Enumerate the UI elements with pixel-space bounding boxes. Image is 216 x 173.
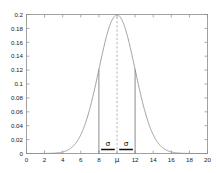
x-tick-label: 8 — [97, 156, 101, 163]
sigma-label-left: σ — [106, 139, 111, 148]
y-tick-label: 0.14 — [11, 52, 24, 59]
y-tick-label: 0.02 — [11, 136, 24, 143]
sigma-label-right: σ — [124, 139, 129, 148]
y-tick-label: 0.1 — [14, 80, 23, 87]
y-tick-label: 0.18 — [11, 25, 24, 32]
normal-distribution-figure: 00.020.040.060.080.10.120.140.160.180.2 … — [0, 0, 216, 173]
x-tick-label: 20 — [204, 156, 211, 163]
y-tick-label: 0.04 — [11, 122, 24, 129]
y-tick-label: 0 — [20, 150, 24, 157]
x-tick-label: 12 — [132, 156, 139, 163]
y-tick-label: 0.08 — [11, 94, 24, 101]
plot-canvas: 00.020.040.060.080.10.120.140.160.180.2 … — [0, 0, 216, 173]
y-tick-label: 0.06 — [11, 108, 24, 115]
x-tick-label: 6 — [79, 156, 83, 163]
x-tick-label-mu: μ — [115, 155, 120, 164]
x-tick-label: 18 — [186, 156, 193, 163]
x-tick-label: 14 — [150, 156, 157, 163]
y-tick-label: 0.16 — [11, 39, 24, 46]
y-tick-label: 0.2 — [14, 11, 23, 18]
x-tick-label: 2 — [43, 156, 47, 163]
x-tick-label: 4 — [61, 156, 65, 163]
x-tick-label: 0 — [25, 156, 29, 163]
y-tick-label: 0.12 — [11, 66, 24, 73]
x-tick-label: 16 — [168, 156, 175, 163]
